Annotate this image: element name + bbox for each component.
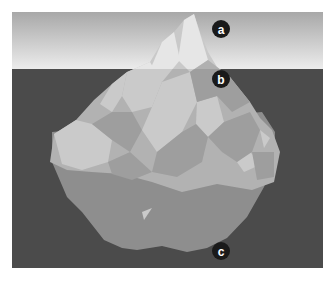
iceberg-diagram: a b c	[12, 12, 323, 268]
label-a-text: a	[218, 23, 225, 37]
label-b-text: b	[217, 73, 224, 87]
iceberg-illustration: a b c	[12, 12, 323, 268]
water-tint	[12, 69, 323, 268]
label-marker-b: b	[212, 70, 230, 88]
label-marker-a: a	[212, 20, 230, 38]
label-c-text: c	[218, 245, 225, 259]
label-marker-c: c	[212, 242, 230, 260]
